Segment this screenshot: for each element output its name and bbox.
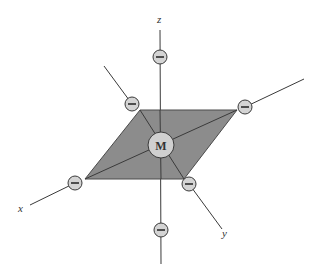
ligand-z-top — [153, 50, 167, 64]
ligand-z-bottom — [154, 223, 168, 237]
ligand-back-left — [125, 97, 139, 111]
x-axis-label: x — [17, 202, 23, 214]
y-axis-label: y — [221, 227, 227, 239]
bond-y — [189, 184, 222, 229]
ligand-y — [182, 177, 196, 191]
octahedral-complex-diagram: M z x y — [0, 0, 317, 277]
metal-center: M — [148, 132, 174, 158]
ligand-x — [68, 176, 82, 190]
z-axis-label: z — [156, 13, 162, 25]
metal-label: M — [155, 139, 166, 153]
ligand-back-right — [238, 100, 252, 114]
bond-x — [30, 183, 75, 205]
bond-back-right — [245, 79, 304, 107]
